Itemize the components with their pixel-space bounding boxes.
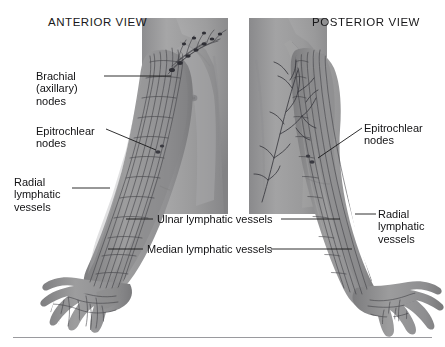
label-brachial-line3: nodes [36, 95, 78, 107]
bottom-rule [13, 337, 432, 338]
label-radial-left-line3: vessels [14, 201, 60, 213]
label-brachial-line1: Brachial [36, 70, 78, 82]
label-radial-left-line1: Radial [14, 176, 60, 188]
label-median-lymphatic-vessels: Median lymphatic vessels [147, 243, 272, 255]
anatomy-artwork [0, 0, 445, 347]
anterior-figure [40, 18, 228, 333]
anterior-view-title: ANTERIOR VIEW [48, 16, 147, 28]
label-radial-right-line1: Radial [378, 208, 424, 220]
label-radial-lymphatic-vessels-anterior: Radial lymphatic vessels [14, 176, 60, 213]
posterior-figure [249, 18, 444, 337]
label-ulnar-lymphatic-vessels: Ulnar lymphatic vessels [157, 213, 273, 225]
posterior-hand [353, 281, 444, 337]
label-radial-lymphatic-vessels-posterior: Radial lymphatic vessels [378, 208, 424, 245]
label-epitrochlear-left-line1: Epitrochlear [36, 125, 95, 137]
label-epitrochlear-right-line2: nodes [364, 134, 423, 146]
label-radial-left-line2: lymphatic [14, 188, 60, 200]
label-brachial-line2: (axillary) [36, 82, 78, 94]
lymphatic-arm-figure: ANTERIOR VIEW POSTERIOR VIEW Brachial (a… [0, 0, 445, 347]
label-epitrochlear-nodes-anterior: Epitrochlear nodes [36, 125, 95, 150]
label-brachial-axillary-nodes: Brachial (axillary) nodes [36, 70, 78, 107]
label-epitrochlear-right-line1: Epitrochlear [364, 122, 423, 134]
label-radial-right-line3: vessels [378, 233, 424, 245]
posterior-view-title: POSTERIOR VIEW [312, 16, 420, 28]
label-epitrochlear-left-line2: nodes [36, 137, 95, 149]
anterior-arm [84, 50, 193, 298]
label-epitrochlear-nodes-posterior: Epitrochlear nodes [364, 122, 423, 147]
label-radial-right-line2: lymphatic [378, 220, 424, 232]
